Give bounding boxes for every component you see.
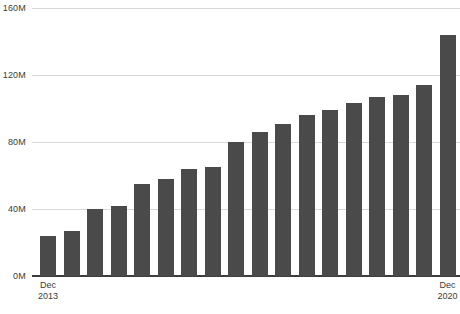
bar — [252, 132, 268, 276]
x-tick-label-year: 2020 — [421, 291, 460, 302]
bar — [134, 184, 150, 276]
y-tick-label-120M: 120M — [0, 70, 26, 80]
y-tick-label-40M: 40M — [0, 204, 26, 214]
bar — [393, 95, 409, 276]
bar — [228, 142, 244, 276]
x-tick-label: Dec2013 — [21, 280, 75, 302]
bar — [205, 167, 221, 276]
x-tick-label-month: Dec — [21, 280, 75, 291]
y-tick-label-160M: 160M — [0, 3, 26, 13]
bar — [322, 110, 338, 276]
bar — [64, 231, 80, 276]
bar — [40, 236, 56, 276]
bar-series — [32, 8, 460, 276]
bar — [369, 97, 385, 276]
bar-chart: 0M40M80M120M160M Dec2013Dec2020 — [0, 0, 460, 314]
bar — [158, 179, 174, 276]
bar — [299, 115, 315, 276]
bar — [346, 103, 362, 276]
bar — [111, 206, 127, 276]
y-tick-label-80M: 80M — [0, 137, 26, 147]
bar — [275, 124, 291, 276]
x-tick-label-year: 2013 — [21, 291, 75, 302]
x-tick-label: Dec2020 — [421, 280, 460, 302]
bar — [416, 85, 432, 276]
x-tick-label-month: Dec — [421, 280, 460, 291]
bar — [87, 209, 103, 276]
bar — [181, 169, 197, 276]
bar — [440, 35, 456, 276]
